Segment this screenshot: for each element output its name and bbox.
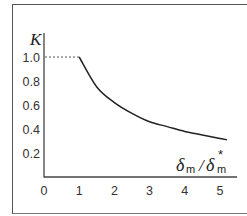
y-tick-label: 0.2 (23, 147, 40, 161)
y-tick-label: 0.4 (23, 123, 40, 137)
x-tick-labels: 012345 (41, 184, 224, 198)
k-curve (79, 57, 227, 140)
x-tick-label: 2 (111, 184, 118, 198)
x-tick-label: 1 (76, 184, 83, 198)
k-vs-delta-chart: K 0.20.40.60.81.0 012345 δ m / δ m * (0, 0, 247, 216)
x-tick-label: 4 (181, 184, 188, 198)
x-tick-label: 3 (146, 184, 153, 198)
x-tick-label: 0 (41, 184, 48, 198)
x-axis-label: δ m / δ m * (176, 147, 226, 175)
svg-text:δ: δ (206, 155, 215, 175)
svg-text:/: / (198, 156, 206, 175)
svg-text:*: * (218, 147, 223, 162)
x-tick-label: 5 (217, 184, 224, 198)
svg-text:δ: δ (176, 155, 185, 175)
y-tick-label: 0.8 (23, 75, 40, 89)
y-tick-labels: 0.20.40.60.81.0 (23, 51, 40, 161)
svg-text:m: m (217, 163, 226, 175)
y-axis-label: K (29, 30, 43, 49)
svg-text:m: m (186, 163, 195, 175)
y-tick-label: 0.6 (23, 99, 40, 113)
y-tick-label: 1.0 (23, 51, 40, 65)
